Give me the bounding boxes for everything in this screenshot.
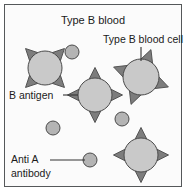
anti-a-antibody	[115, 112, 129, 126]
blood-cell-body	[78, 78, 112, 112]
blood-cell-label: Type B blood cell	[103, 33, 183, 45]
anti-a-antibody	[65, 45, 79, 59]
blood-cell	[113, 127, 168, 182]
blood-cell-body	[124, 138, 158, 172]
b-antigen-label: B antigen	[9, 89, 54, 101]
anti-a-antibody-label-line2: antibody	[11, 167, 51, 179]
anti-a-antibody	[46, 121, 60, 135]
figure-root: Type B blood Type B blood cell B antigen…	[0, 0, 186, 191]
blood-cell	[26, 49, 65, 88]
anti-a-antibody	[83, 153, 97, 167]
anti-a-antibody-label-line1: Anti A	[11, 153, 38, 165]
diagram-title: Type B blood	[61, 14, 125, 26]
blood-cell-body	[28, 51, 62, 85]
blood-type-diagram: Type B blood Type B blood cell B antigen…	[0, 0, 186, 191]
blood-cell-body	[123, 59, 159, 95]
